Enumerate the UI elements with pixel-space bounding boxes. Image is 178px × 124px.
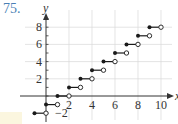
y-tick-label: 2: [36, 72, 42, 86]
open-endpoint: [44, 111, 48, 115]
open-endpoint: [136, 42, 140, 46]
closed-endpoint: [44, 103, 48, 107]
closed-endpoint: [67, 85, 71, 89]
y-tick-label: 8: [36, 20, 42, 34]
open-endpoint: [55, 102, 59, 106]
y-tick-label: 6: [36, 37, 42, 51]
open-endpoint: [67, 94, 71, 98]
x-tick-label: 4: [89, 98, 95, 112]
y-tick-label: 4: [36, 55, 42, 69]
closed-endpoint: [136, 34, 140, 38]
x-tick-label: 10: [155, 98, 167, 112]
closed-endpoint: [90, 68, 94, 72]
closed-endpoint: [33, 111, 37, 115]
closed-endpoint: [56, 94, 60, 98]
closed-endpoint: [79, 77, 83, 81]
open-endpoint: [124, 51, 128, 55]
open-endpoint: [101, 68, 105, 72]
open-endpoint: [113, 59, 117, 63]
y-axis-label: y: [42, 1, 49, 15]
closed-endpoint: [125, 42, 129, 46]
open-endpoint: [147, 34, 151, 38]
x-axis-label: x: [174, 89, 178, 103]
closed-endpoint: [148, 25, 152, 29]
open-endpoint: [90, 77, 94, 81]
x-tick-label: 8: [135, 98, 141, 112]
open-endpoint: [159, 25, 163, 29]
x-tick-label: 6: [112, 98, 118, 112]
y-tick-label: −2: [55, 106, 68, 120]
step-segments: [33, 25, 164, 115]
closed-endpoint: [113, 51, 117, 55]
closed-endpoint: [102, 60, 106, 64]
open-endpoint: [78, 85, 82, 89]
step-function-chart: xy 246810−22468: [0, 0, 178, 124]
x-axis-arrow-icon: [167, 93, 174, 99]
